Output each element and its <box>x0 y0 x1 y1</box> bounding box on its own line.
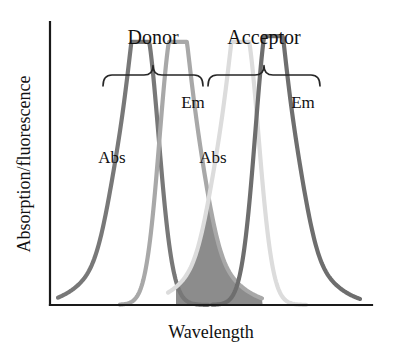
acceptor-group-label: Acceptor <box>227 26 301 49</box>
curve-donor-absorption <box>58 42 208 305</box>
plot-canvas: Donor Acceptor Em Abs Em Abs Wavelength … <box>0 0 396 360</box>
donor-absorption-label: Abs <box>98 148 125 167</box>
fret-spectral-overlap-figure: Donor Acceptor Em Abs Em Abs Wavelength … <box>0 0 396 360</box>
y-axis-label: Absorption/fluorescence <box>14 76 34 253</box>
donor-emission-label: Em <box>181 93 205 112</box>
curve-acceptor-emission <box>212 36 360 305</box>
acceptor-absorption-label: Abs <box>199 148 226 167</box>
donor-group-label: Donor <box>127 26 178 48</box>
x-axis-label: Wavelength <box>168 322 254 342</box>
curve-acceptor-absorption <box>168 42 306 305</box>
acceptor-emission-label: Em <box>291 93 315 112</box>
